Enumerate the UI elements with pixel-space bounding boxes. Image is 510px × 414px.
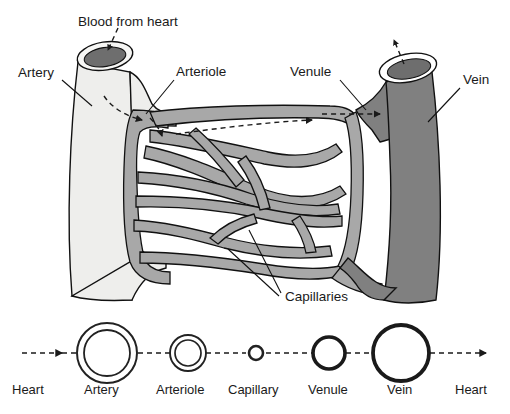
label-vein: Vein xyxy=(463,72,489,87)
label-venule-group: Venule xyxy=(290,64,366,110)
leader-venule xyxy=(340,80,366,110)
leader-arteriole xyxy=(146,80,174,114)
legend-row: Heart Artery Arteriole Capillary Venule … xyxy=(12,323,487,397)
legend-venule-outer xyxy=(313,337,345,369)
label-arteriole: Arteriole xyxy=(176,64,226,79)
label-blood-from-heart-group: Blood from heart xyxy=(78,14,178,29)
label-vein-group: Vein xyxy=(428,72,489,122)
capillary-top-channel xyxy=(150,105,356,126)
legend-circle-artery xyxy=(77,323,137,383)
diagram-canvas: Blood from heart Artery Arteriole Venule… xyxy=(0,0,510,414)
label-blood-from-heart: Blood from heart xyxy=(78,14,178,29)
legend-label-vein: Vein xyxy=(387,382,412,397)
label-artery: Artery xyxy=(18,65,54,80)
legend-label-heart-left: Heart xyxy=(12,382,44,397)
legend-label-arteriole: Arteriole xyxy=(156,382,204,397)
legend-vein-outer xyxy=(373,325,429,381)
legend-arteriole-inner xyxy=(175,340,201,366)
blood-vessel-diagram: Blood from heart Artery Arteriole Venule… xyxy=(0,0,510,414)
legend-label-venule: Venule xyxy=(308,382,348,397)
label-capillaries: Capillaries xyxy=(285,289,348,304)
legend-circle-vein xyxy=(373,325,429,381)
legend-circle-capillary xyxy=(249,346,263,360)
legend-capillary-outer xyxy=(249,346,263,360)
legend-label-artery: Artery xyxy=(84,382,119,397)
legend-artery-inner xyxy=(84,330,130,376)
label-venule: Venule xyxy=(290,64,331,79)
legend-circle-arteriole xyxy=(170,335,206,371)
vein-body xyxy=(384,72,440,303)
legend-label-heart-right: Heart xyxy=(455,382,487,397)
legend-label-capillary: Capillary xyxy=(228,382,279,397)
legend-circle-venule xyxy=(313,337,345,369)
